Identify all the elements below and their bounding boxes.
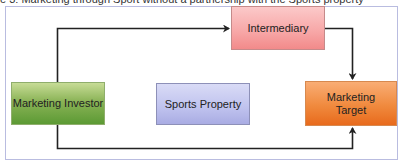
edge-investor-to-intermediary [58, 29, 230, 83]
node-intermediary: Intermediary [231, 6, 325, 50]
node-label: Marketing Target [327, 91, 375, 117]
node-marketing-target: Marketing Target [305, 81, 397, 126]
node-label: Sports Property [165, 98, 241, 111]
node-label-line1: Marketing [327, 91, 375, 103]
node-label: Intermediary [247, 22, 308, 35]
node-label-line2: Target [336, 104, 367, 116]
node-marketing-investor: Marketing Investor [11, 82, 105, 125]
edge-intermediary-to-target [325, 29, 353, 80]
node-label: Marketing Investor [13, 97, 103, 110]
node-sports-property: Sports Property [156, 83, 250, 125]
edge-investor-to-target [58, 125, 353, 149]
